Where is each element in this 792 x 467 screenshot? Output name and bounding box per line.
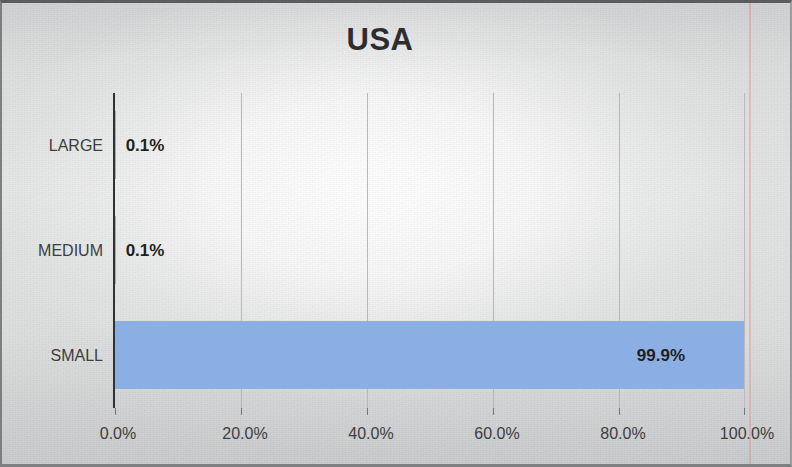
value-axis-labels: 0.0% 20.0% 40.0% 60.0% 80.0% 100.0% <box>0 425 792 451</box>
bar-row-large: 0.1% <box>115 93 745 198</box>
x-tick-mark <box>241 408 242 415</box>
x-tick-mark <box>744 408 745 415</box>
category-tick-medium: MEDIUM <box>0 198 103 303</box>
bar-value-label-large: 0.1% <box>126 136 165 156</box>
x-tick-label: 60.0% <box>474 425 519 443</box>
plot-area: 0.1% 0.1% 99.9% <box>115 93 745 408</box>
category-tick-large: LARGE <box>0 93 103 198</box>
x-tick-mark <box>115 408 116 415</box>
category-tick-label: SMALL <box>3 347 103 365</box>
bar-chart: USA LARGE MEDIUM SMALL 0.1% <box>0 0 792 467</box>
bar-large[interactable] <box>115 111 116 179</box>
category-tick-label: LARGE <box>3 137 103 155</box>
x-tick-mark <box>493 408 494 415</box>
bar-row-medium: 0.1% <box>115 198 745 303</box>
bar-value-label-medium: 0.1% <box>126 241 165 261</box>
category-tick-label: MEDIUM <box>3 242 103 260</box>
category-axis: LARGE MEDIUM SMALL <box>0 93 103 408</box>
scanned-chart-image: USA LARGE MEDIUM SMALL 0.1% <box>0 0 792 467</box>
x-tick-label: 100.0% <box>720 425 774 443</box>
x-tick-label: 20.0% <box>222 425 267 443</box>
x-tick-label: 0.0% <box>100 425 136 443</box>
x-tick-label: 40.0% <box>348 425 393 443</box>
category-tick-small: SMALL <box>0 303 103 408</box>
x-tick-label: 80.0% <box>600 425 645 443</box>
x-tick-mark <box>367 408 368 415</box>
chart-title: USA <box>0 22 760 58</box>
bar-value-label-small: 99.9% <box>637 346 685 366</box>
bar-medium[interactable] <box>115 216 116 284</box>
bar-row-small: 99.9% <box>115 303 745 408</box>
x-tick-mark <box>619 408 620 415</box>
